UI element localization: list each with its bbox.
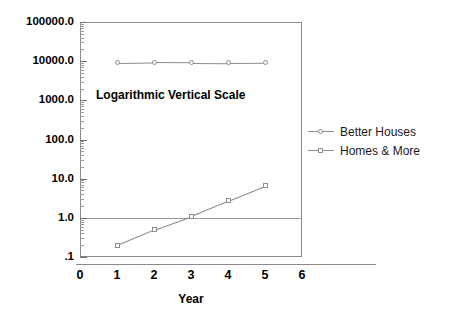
- y-axis-minor-tick: [80, 190, 84, 191]
- y-axis-minor-tick: [80, 227, 84, 228]
- legend-item[interactable]: Homes & More: [308, 141, 444, 160]
- data-point-marker: [189, 214, 194, 219]
- y-axis-minor-tick: [80, 155, 84, 156]
- x-axis-tick-label: 5: [253, 268, 277, 282]
- data-point-marker: [115, 60, 120, 65]
- y-axis-minor-tick: [80, 185, 84, 186]
- legend-item[interactable]: Better Houses: [308, 122, 444, 141]
- y-axis-minor-tick: [80, 89, 84, 90]
- y-axis-minor-tick: [80, 63, 84, 64]
- y-axis-minor-tick: [80, 230, 84, 231]
- series-line-segment: [117, 62, 154, 64]
- data-point-marker: [226, 60, 231, 65]
- y-axis-minor-tick: [80, 146, 84, 147]
- y-axis-minor-tick: [80, 116, 84, 117]
- legend-marker-square-icon: [308, 145, 334, 156]
- y-axis-minor-tick: [80, 70, 84, 71]
- y-axis-label-group: 100000.010000.01000.0100.010.01.0.1: [0, 0, 74, 335]
- data-point-marker: [152, 60, 157, 65]
- x-axis-tick-label: 0: [68, 268, 92, 282]
- y-axis-minor-tick: [80, 42, 84, 43]
- x-axis-tick-label: 4: [216, 268, 240, 282]
- y-axis-minor-tick: [80, 121, 84, 122]
- y-axis-minor-tick: [80, 182, 84, 183]
- y-axis-tick-label: .1: [64, 251, 74, 263]
- x-axis-title: Year: [80, 292, 302, 306]
- y-axis-minor-tick: [80, 167, 84, 168]
- y-axis-tick-label: 1.0: [58, 212, 74, 224]
- chart-legend: Better HousesHomes & More: [308, 122, 444, 160]
- y-axis-minor-tick: [80, 65, 84, 66]
- y-axis-minor-tick: [80, 151, 84, 152]
- y-axis-minor-tick: [80, 73, 84, 74]
- y-axis-minor-tick: [80, 109, 84, 110]
- y-axis-minor-tick: [80, 31, 84, 32]
- y-axis-minor-tick: [80, 220, 84, 221]
- y-axis-minor-tick: [80, 143, 84, 144]
- x-axis-tick-label: 2: [142, 268, 166, 282]
- y-axis-minor-tick: [80, 106, 84, 107]
- y-axis-minor-tick: [80, 245, 84, 246]
- y-axis-minor-tick: [80, 104, 84, 105]
- y-axis-minor-tick: [80, 82, 84, 83]
- y-axis-tick-label: 100000.0: [26, 16, 74, 28]
- data-point-marker: [226, 198, 231, 203]
- series-line-segment: [228, 186, 265, 202]
- series-line-segment: [191, 63, 228, 64]
- y-axis-minor-tick: [80, 238, 84, 239]
- y-axis-tick-label: 100.0: [45, 134, 74, 146]
- y-axis-tick-label: 1000.0: [39, 94, 74, 106]
- y-axis-minor-tick: [80, 102, 84, 103]
- y-axis-minor-tick: [80, 24, 84, 25]
- data-point-marker: [189, 60, 194, 65]
- y-axis-minor-tick: [80, 34, 84, 35]
- data-point-marker: [115, 243, 120, 248]
- y-axis-minor-tick: [80, 180, 84, 181]
- legend-item-label: Better Houses: [340, 125, 416, 139]
- y-axis-minor-tick: [80, 199, 84, 200]
- chart-annotation: Logarithmic Vertical Scale: [96, 88, 245, 102]
- y-axis-minor-tick: [80, 222, 84, 223]
- data-point-marker: [263, 183, 268, 188]
- y-axis-minor-tick: [80, 26, 84, 27]
- y-axis-minor-tick: [80, 77, 84, 78]
- y-axis-tick-label: 10000.0: [32, 55, 74, 67]
- y-axis-minor-tick: [80, 49, 84, 50]
- y-axis-minor-tick: [80, 112, 84, 113]
- series-line-segment: [117, 230, 154, 247]
- plot-area: [80, 22, 302, 257]
- series-line-segment: [154, 62, 191, 63]
- y-axis-minor-tick: [80, 187, 84, 188]
- y-axis-minor-tick: [80, 206, 84, 207]
- y-axis-tick-label: 10.0: [52, 173, 74, 185]
- data-point-marker: [152, 227, 157, 232]
- y-axis-minor-tick: [80, 194, 84, 195]
- y-axis-minor-tick: [80, 233, 84, 234]
- legend-item-label: Homes & More: [340, 144, 420, 158]
- y-axis-major-tick: [80, 257, 87, 258]
- y-axis-minor-tick: [80, 128, 84, 129]
- x-axis-tick-label: 6: [290, 268, 314, 282]
- legend-marker-circle-icon: [308, 126, 334, 137]
- x-axis-line: [76, 264, 376, 265]
- series-line-segment: [191, 201, 228, 217]
- y-axis-minor-tick: [80, 28, 84, 29]
- chart-page: 100000.010000.01000.0100.010.01.0.1 Loga…: [0, 0, 449, 335]
- y-axis-minor-tick: [80, 148, 84, 149]
- y-axis-minor-tick: [80, 160, 84, 161]
- y-axis-minor-tick: [80, 141, 84, 142]
- data-point-marker: [263, 60, 268, 65]
- series-line-segment: [228, 63, 265, 64]
- y-axis-minor-tick: [80, 38, 84, 39]
- x-axis-tick-label: 1: [105, 268, 129, 282]
- x-axis-tick-label: 3: [179, 268, 203, 282]
- y-axis-minor-tick: [80, 67, 84, 68]
- y-axis-minor-tick: [80, 224, 84, 225]
